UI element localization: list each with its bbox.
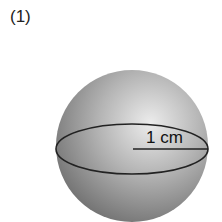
sphere [56, 70, 208, 222]
radius-label: 1 cm [146, 128, 183, 147]
sphere-diagram: 1 cm [0, 0, 222, 222]
